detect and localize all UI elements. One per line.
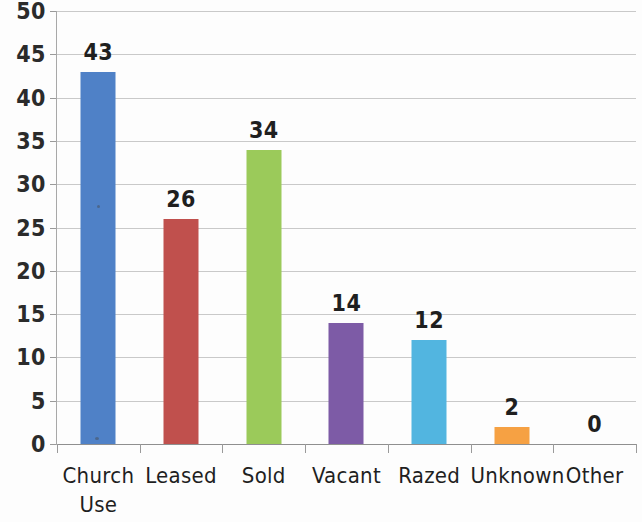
x-axis-tick [305, 444, 306, 453]
y-axis-tick-label: 15 [0, 301, 46, 327]
y-axis-tick-label: 45 [0, 41, 46, 67]
x-axis-tick [140, 444, 141, 453]
x-axis-category-label: Church Use [57, 461, 140, 519]
bar-value-label: 12 [414, 307, 444, 333]
bar-chart: 05101520253035404550 432634141220 Church… [0, 0, 642, 522]
x-axis-category-label: Leased [140, 461, 223, 490]
bar-value-label: 34 [249, 117, 279, 143]
x-axis-category-label: Razed [388, 461, 471, 490]
plot-area: 432634141220 [57, 11, 636, 444]
x-axis-tick [57, 444, 58, 453]
bar-value-labels: 432634141220 [57, 11, 636, 444]
bar-value-label: 0 [587, 411, 602, 437]
y-axis-tick-label: 50 [0, 0, 46, 24]
y-axis-tick-label: 5 [0, 388, 46, 414]
y-axis-tick-label: 10 [0, 344, 46, 370]
x-axis-tick [553, 444, 554, 453]
x-axis-tick [471, 444, 472, 453]
x-axis-category-label: Other [553, 461, 636, 490]
bar-value-label: 43 [83, 39, 113, 65]
x-axis-line [57, 444, 637, 445]
x-axis-category-label: Sold [222, 461, 305, 490]
x-axis-category-labels: Church UseLeasedSoldVacantRazedUnknownOt… [57, 461, 636, 519]
x-axis-tick [388, 444, 389, 453]
y-axis-tick-label: 20 [0, 258, 46, 284]
x-axis-tick [636, 444, 637, 453]
bar-value-label: 2 [504, 394, 519, 420]
y-axis-tick-label: 25 [0, 215, 46, 241]
y-axis-tick-label: 30 [0, 171, 46, 197]
y-axis-line [56, 11, 57, 445]
x-axis-category-label: Vacant [305, 461, 388, 490]
y-axis-tick-label: 0 [0, 431, 46, 457]
y-axis-tick-label: 40 [0, 85, 46, 111]
bar-value-label: 14 [332, 290, 362, 316]
x-axis-category-label: Unknown [471, 461, 554, 490]
y-axis-tick-label: 35 [0, 128, 46, 154]
x-axis-tick [222, 444, 223, 453]
bar-value-label: 26 [166, 186, 196, 212]
